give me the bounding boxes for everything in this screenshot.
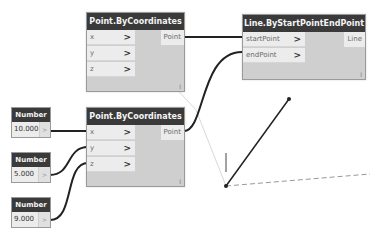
node-title: Number — [12, 198, 50, 212]
port-label: x — [90, 128, 94, 136]
wire-number3-to-z[interactable] — [50, 163, 88, 220]
number-input[interactable]: 9.000 — [12, 212, 38, 227]
output-port-arrow[interactable]: > — [39, 122, 51, 137]
number-node-3[interactable]: Number 9.000 > — [11, 197, 51, 228]
chevron-right-icon: > — [293, 48, 301, 63]
output-port-line[interactable]: Line — [344, 32, 365, 47]
wire-number2-to-y[interactable] — [50, 147, 88, 175]
geometry-start-point[interactable] — [224, 184, 228, 188]
input-port-y[interactable]: y > — [87, 46, 135, 61]
input-port-startpoint[interactable]: startPoint > — [243, 32, 305, 47]
preview-axis-line — [196, 110, 226, 186]
wire-point-to-endpoint[interactable] — [184, 52, 242, 131]
point-by-coordinates-node-top[interactable]: Point.ByCoordinates x > y > z > Point l — [86, 12, 185, 92]
node-title: Point.ByCoordinates — [87, 108, 184, 125]
input-port-endpoint[interactable]: endPoint > — [243, 48, 305, 63]
lacing-indicator[interactable]: l — [360, 71, 362, 78]
port-label: z — [90, 160, 94, 168]
input-port-z[interactable]: z > — [87, 157, 135, 172]
port-label: y — [90, 49, 94, 57]
geometry-line[interactable] — [226, 99, 289, 186]
output-port-point[interactable]: Point — [161, 30, 184, 45]
number-input[interactable]: 5.000 — [12, 167, 38, 182]
geometry-end-point[interactable] — [287, 97, 291, 101]
chevron-right-icon: > — [293, 32, 301, 47]
port-label: endPoint — [246, 51, 277, 59]
output-port-arrow[interactable]: > — [38, 167, 50, 182]
lacing-indicator[interactable]: l — [179, 178, 181, 185]
node-title: Line.ByStartPointEndPoint — [243, 15, 365, 32]
node-title: Point.ByCoordinates — [87, 13, 184, 30]
port-label: startPoint — [246, 35, 280, 43]
graph-canvas[interactable]: Point.ByCoordinates x > y > z > Point l … — [0, 0, 378, 242]
port-label: y — [90, 144, 94, 152]
port-label: x — [90, 33, 94, 41]
input-port-x[interactable]: x > — [87, 125, 135, 140]
lacing-indicator[interactable]: l — [179, 83, 181, 90]
line-by-start-point-end-point-node[interactable]: Line.ByStartPointEndPoint startPoint > e… — [242, 14, 366, 80]
chevron-right-icon: > — [123, 62, 131, 77]
port-label: z — [90, 65, 94, 73]
chevron-right-icon: > — [123, 30, 131, 45]
input-port-z[interactable]: z > — [87, 62, 135, 77]
point-by-coordinates-node-bottom[interactable]: Point.ByCoordinates x > y > z > Point l — [86, 107, 185, 187]
chevron-right-icon: > — [123, 157, 131, 172]
number-node-2[interactable]: Number 5.000 > — [11, 152, 51, 183]
number-node-1[interactable]: Number 10.000 > — [11, 107, 51, 138]
chevron-right-icon: > — [123, 125, 131, 140]
preview-x-axis — [226, 174, 370, 186]
number-input[interactable]: 10.000 — [12, 122, 39, 137]
output-port-arrow[interactable]: > — [38, 212, 50, 227]
output-port-point[interactable]: Point — [161, 125, 184, 140]
input-port-x[interactable]: x > — [87, 30, 135, 45]
input-port-y[interactable]: y > — [87, 141, 135, 156]
chevron-right-icon: > — [123, 46, 131, 61]
node-title: Number — [12, 153, 50, 167]
chevron-right-icon: > — [123, 141, 131, 156]
node-title: Number — [12, 108, 50, 122]
